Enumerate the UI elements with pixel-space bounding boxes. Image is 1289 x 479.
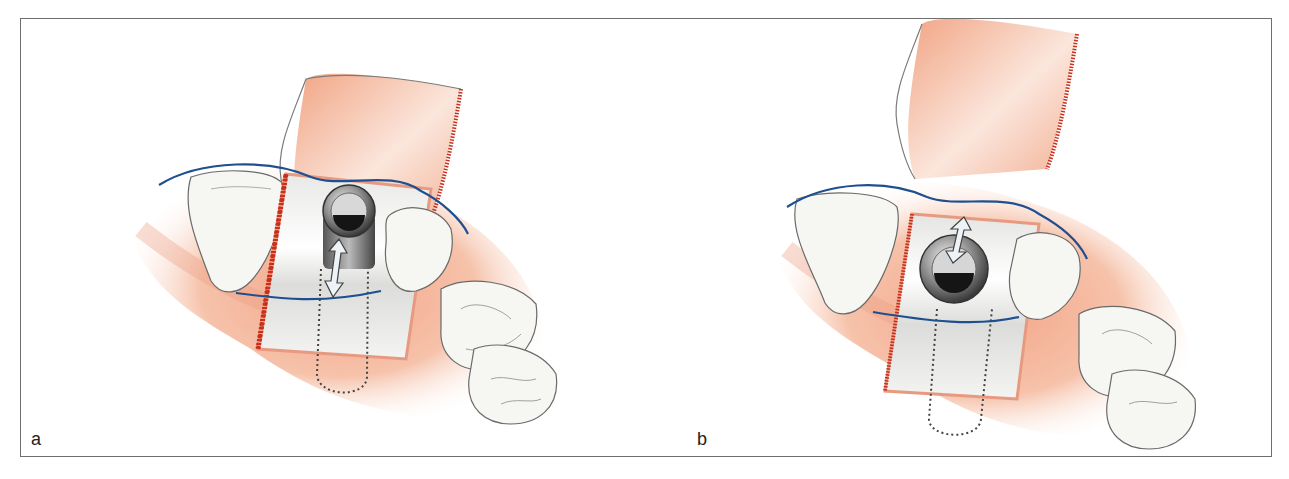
panel-b: b — [647, 19, 1273, 456]
panel-label-a: a — [31, 430, 41, 448]
panel-a: a — [21, 19, 647, 456]
implant — [323, 185, 375, 269]
figure-frame: a — [20, 18, 1272, 457]
panel-label-b: b — [697, 430, 707, 448]
panel-a-illustration — [21, 19, 647, 456]
panel-b-illustration — [647, 19, 1273, 456]
